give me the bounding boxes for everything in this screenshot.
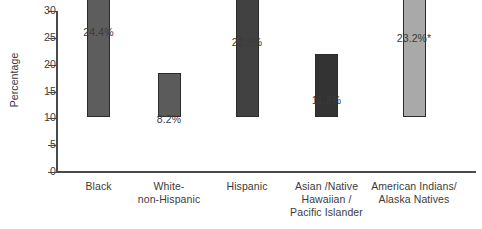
bar-chart: Percentage 30 25 20 15 10 5 0 (0, 0, 482, 229)
x-axis-label-american-indians-alaska-natives: American Indians/ Alaska Natives (349, 180, 479, 206)
bar-american-indians-alaska-natives[interactable] (403, 0, 426, 117)
bar-black[interactable] (87, 0, 110, 117)
bar-value-label: 8.2% (129, 113, 209, 125)
bar-value-label: 24.4% (59, 26, 139, 38)
bar-asian-native-hawaiian-pacific-islander[interactable] (315, 54, 338, 117)
bar-value-label: 22.5% (207, 36, 287, 48)
bar-hispanic[interactable] (236, 0, 259, 117)
bar-white-non-hispanic[interactable] (158, 73, 181, 117)
bar-value-label: 11.8% (287, 94, 367, 106)
bar-value-label: 23.2%* (374, 32, 454, 44)
